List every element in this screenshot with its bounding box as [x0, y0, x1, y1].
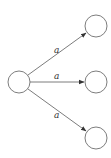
edge-label-top: a: [54, 45, 59, 55]
transition-diagram: a a a: [0, 0, 111, 158]
target-node-top: [85, 15, 107, 37]
target-node-middle: [85, 71, 107, 93]
edge-label-middle: a: [54, 71, 59, 81]
target-node-bottom: [85, 127, 107, 149]
source-node: [8, 71, 30, 93]
edge-label-bottom: a: [54, 110, 59, 120]
